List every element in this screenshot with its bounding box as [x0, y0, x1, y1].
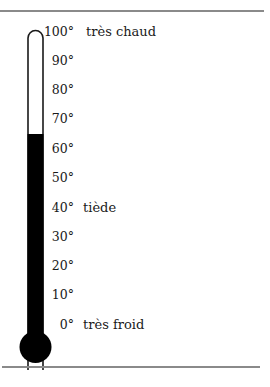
label-hot: très chaud	[86, 25, 156, 39]
tick-50: 50°	[40, 171, 74, 185]
tick-70: 70°	[40, 112, 74, 126]
label-warm: tiède	[83, 201, 116, 215]
tick-90: 90°	[40, 54, 74, 68]
tick-60: 60°	[40, 142, 74, 156]
tick-40: 40°	[40, 201, 74, 215]
tick-10: 10°	[40, 288, 74, 302]
tick-80: 80°	[40, 83, 74, 97]
tick-100: 100°	[38, 25, 74, 39]
tick-30: 30°	[40, 230, 74, 244]
tick-0: 0°	[40, 318, 74, 332]
label-cold: très froid	[83, 318, 144, 332]
thermometer-bulb	[20, 331, 52, 363]
tick-20: 20°	[40, 259, 74, 273]
bottom-rule	[2, 366, 260, 368]
